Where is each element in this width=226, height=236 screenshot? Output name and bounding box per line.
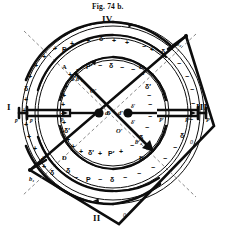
outer-ring-mark-2: + [112, 37, 116, 44]
inner-ring-mark-4: − [120, 64, 124, 71]
outer-ring-mark-27: δ [180, 132, 184, 139]
outer-ring-mark-30: − [151, 164, 155, 171]
inner-ring-mark-3: δ [109, 62, 113, 69]
outer-ring-mark-4: + [70, 40, 74, 47]
outer-ring-mark-35: P [86, 176, 91, 183]
outer-ring-mark-7: + [42, 53, 46, 60]
outer-ring-mark-34: − [98, 176, 102, 183]
inner-ring-mark-11: − [145, 124, 149, 131]
diamond-edge-zero-right: 0 [190, 139, 193, 145]
inner-ring-mark-15: P′ [108, 150, 114, 157]
point-label-b: B [139, 155, 143, 162]
outer-ring-mark-13: + [24, 121, 28, 128]
commutator-contact-left [94, 108, 103, 117]
outer-ring-mark-3: + [125, 39, 129, 46]
inner-ring-mark-8: − [147, 92, 151, 99]
inner-ring-mark-12: δ [139, 134, 143, 141]
outer-ring-mark-17: + [42, 163, 46, 170]
outer-ring-mark-25: − [191, 100, 195, 107]
point-label-d: D [62, 155, 67, 162]
outer-ring-mark-10: δ [24, 85, 28, 92]
figure-container: Fig. 74 b. IV III II I 0 0 A E D B O′ 0 … [0, 0, 226, 236]
outer-ring-mark-14: + [27, 133, 31, 140]
outer-ring-mark-29: − [163, 155, 167, 162]
mid-ring-group [35, 35, 191, 191]
point-label-e: E [139, 64, 143, 71]
outer-ring-mark-12: + [22, 107, 26, 114]
center-label-o-upper: O′ [90, 88, 97, 95]
outer-ring-mark-31: − [137, 170, 141, 177]
inner-ring-mark-5: − [131, 66, 135, 73]
inner-ring-mark-17: δ′ [88, 149, 94, 156]
outer-ring-mark-32: − [123, 174, 127, 181]
brush-label-delta-prime-right-lower: δ′ [131, 120, 135, 126]
figure-caption: Fig. 74 b. [92, 3, 124, 11]
point-label-a: A [62, 64, 67, 71]
inner-ring-mark-6: − [140, 71, 144, 78]
brush-label-delta-prime-right-upper: δ′ [131, 104, 135, 110]
outer-ring-mark-11: + [24, 96, 28, 103]
outer-ring-mark-22: − [177, 60, 181, 67]
inner-ring-mark-25: + [62, 92, 66, 99]
node-label-b2: b₂ [176, 41, 182, 48]
node-label-b1: b₁ [29, 176, 35, 183]
inner-ring-mark-24: + [61, 101, 65, 108]
outer-ring-mark-8: + [34, 62, 38, 69]
outer-ring-mark-24: − [190, 86, 194, 93]
quadrant-label-ii: II [93, 214, 101, 223]
inner-ring-mark-16: + [98, 150, 102, 157]
inner-ring-mark-1: P′ [86, 63, 92, 70]
inner-ring-mark-10: − [148, 113, 152, 120]
outer-ring-mark-1: δ [99, 35, 103, 42]
inner-ring-mark-23: + [61, 110, 65, 117]
inner-ring-mark-21: δ′ [64, 127, 70, 134]
contact-label-d-prime: d′ [118, 110, 123, 117]
outer-ring-mark-0: + [86, 37, 90, 44]
inner-ring-mark-7: δ′ [145, 83, 151, 90]
outer-ring-mark-37: δ [66, 167, 70, 174]
outer-ring-mark-19: − [142, 43, 146, 50]
center-label-o-lower: O′ [116, 128, 123, 135]
outer-ring-mark-16: + [41, 155, 45, 162]
outer-ring-mark-9: + [28, 73, 32, 80]
quadrant-label-i: I [7, 103, 11, 112]
outer-ring-mark-33: δ [110, 176, 114, 183]
inner-ring-mark-14: + [119, 148, 123, 155]
outer-ring-mark-20: + [150, 46, 154, 53]
outer-ring-mark-5: P [62, 46, 67, 53]
diamond-edge-zero-bottom: 0 [123, 212, 126, 218]
outer-ring-mark-36: − [74, 174, 78, 181]
outer-ring-mark-23: − [185, 73, 189, 80]
outer-ring-mark-18: δ [50, 169, 54, 176]
outer-ring-mark-28: − [173, 144, 177, 151]
brush-label-p-left-outer: p [15, 118, 18, 124]
inner-ring-mark-0: − [76, 66, 80, 73]
inner-ring-mark-28: + [68, 71, 72, 78]
quadrant-label-iv: IV [102, 15, 113, 24]
inner-ring-mark-22: + [62, 119, 66, 126]
brush-label-p-left-inner: p [30, 118, 33, 124]
inner-ring-mark-20: + [66, 136, 70, 143]
inner-ring-mark-19: + [71, 143, 75, 150]
contact-label-d: d [105, 110, 108, 117]
inner-ring-mark-13: − [130, 142, 134, 149]
outer-ring-mark-26: − [189, 116, 193, 123]
outer-ring-mark-21: δ [161, 48, 165, 55]
inner-ring-mark-26: + [64, 83, 68, 90]
node-label-b1-prime: b′₁ [76, 76, 83, 83]
brush-label-p-right-outer: P′ [206, 118, 211, 124]
inner-ring-mark-9: − [148, 101, 152, 108]
outer-ring-mark-15: + [33, 145, 37, 152]
brush-label-p-right-inner: P′ [159, 118, 164, 124]
outer-ring-mark-6: + [53, 45, 57, 52]
inner-ring-mark-2: − [98, 62, 102, 69]
quadrant-label-iii: III [196, 103, 207, 112]
inner-ring-mark-18: + [79, 148, 83, 155]
